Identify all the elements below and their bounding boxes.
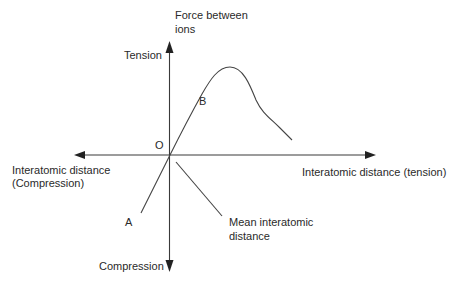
force-curve [141,67,292,213]
x-positive-label: Interatomic distance (tension) [302,166,446,178]
point-a-label: A [125,216,133,228]
mean-distance-label-line1: Mean interatomic [229,216,314,228]
compression-label: Compression [99,260,164,272]
y-axis-title-line2: ions [175,23,196,35]
mean-distance-leader-line [176,162,222,216]
point-b-label: B [199,95,206,107]
origin-label: O [155,139,164,151]
x-negative-label-line1: Interatomic distance [12,164,110,176]
x-negative-label-line2: (Compression) [12,177,84,189]
diagram-canvas: Force between ions Tension Compression I… [0,0,452,284]
y-axis-down-arrow-icon [166,260,174,272]
mean-distance-label-line2: distance [229,230,270,242]
y-axis-up-arrow-icon [166,41,174,53]
tension-label: Tension [124,49,162,61]
y-axis-title-line1: Force between [175,9,248,21]
force-distance-diagram: Force between ions Tension Compression I… [0,0,452,284]
x-axis-right-arrow-icon [365,151,376,159]
x-axis-left-arrow-icon [74,151,85,159]
